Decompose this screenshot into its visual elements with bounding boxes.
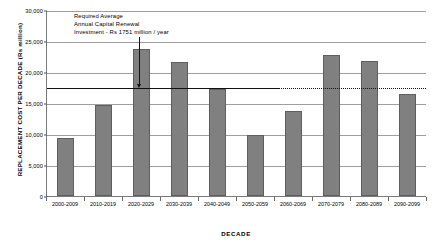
x-tick-label: 2070-2079 <box>312 201 350 207</box>
annotation-arrow-head <box>137 84 141 88</box>
x-tick-label: 2060-2069 <box>274 201 312 207</box>
x-tick-label: 2010-2019 <box>84 201 122 207</box>
bar[interactable] <box>361 61 378 196</box>
y-tick-label: 30,000 <box>25 8 43 14</box>
y-tick-label: 10,000 <box>25 132 43 138</box>
bar[interactable] <box>133 49 150 196</box>
bar[interactable] <box>285 111 302 196</box>
x-tick-label: 2090-2099 <box>388 201 426 207</box>
bar-slot <box>199 11 237 196</box>
bar[interactable] <box>323 55 340 196</box>
annotation-line: Investment - Rs 1751 million / year <box>74 28 169 36</box>
bar-slot <box>85 11 123 196</box>
x-tick-label: 2030-2039 <box>160 201 198 207</box>
x-tick-label: 2020-2029 <box>122 201 160 207</box>
y-tick-label: 5,000 <box>29 163 44 169</box>
bars-layer <box>47 11 426 196</box>
bar[interactable] <box>57 138 74 196</box>
y-tick-label: 15,000 <box>25 101 43 107</box>
annotation-line: Required Average <box>74 12 169 20</box>
bar[interactable] <box>95 105 112 196</box>
x-tick-label: 2040-2049 <box>198 201 236 207</box>
x-axis-title: DECADE <box>46 230 426 237</box>
y-tick-label: 25,000 <box>25 39 43 45</box>
bar[interactable] <box>399 94 416 196</box>
bar[interactable] <box>247 135 264 196</box>
average-line-solid <box>47 88 279 89</box>
bar[interactable] <box>209 89 226 196</box>
bar-slot <box>47 11 85 196</box>
bar-slot <box>123 11 161 196</box>
bar-slot <box>274 11 312 196</box>
x-tick-label: 2080-2089 <box>350 201 388 207</box>
bar-slot <box>388 11 426 196</box>
bar-slot <box>312 11 350 196</box>
annotation-arrow-stem <box>139 37 140 84</box>
annotation-required-average: Required AverageAnnual Capital RenewalIn… <box>74 12 169 37</box>
y-tick-label: 20,000 <box>25 70 43 76</box>
x-tick-label: 2050-2059 <box>236 201 274 207</box>
annotation-line: Annual Capital Renewal <box>74 20 169 28</box>
bar-slot <box>237 11 275 196</box>
x-tick-label: 2000-2009 <box>46 201 84 207</box>
replacement-cost-bar-chart: REPLACEMENT COST PER DECADE (Rs million)… <box>0 0 433 252</box>
y-tick-label: 0 <box>40 194 43 200</box>
bar[interactable] <box>171 62 188 196</box>
plot-area: 30,00025,00020,00015,00010,0005,0000 <box>46 11 426 197</box>
y-axis-title: REPLACEMENT COST PER DECADE (Rs million) <box>16 5 23 195</box>
bar-slot <box>350 11 388 196</box>
bar-slot <box>161 11 199 196</box>
x-tick-mark <box>426 197 427 201</box>
x-axis-labels: 2000-20092010-20192020-20292030-20392040… <box>46 201 426 207</box>
